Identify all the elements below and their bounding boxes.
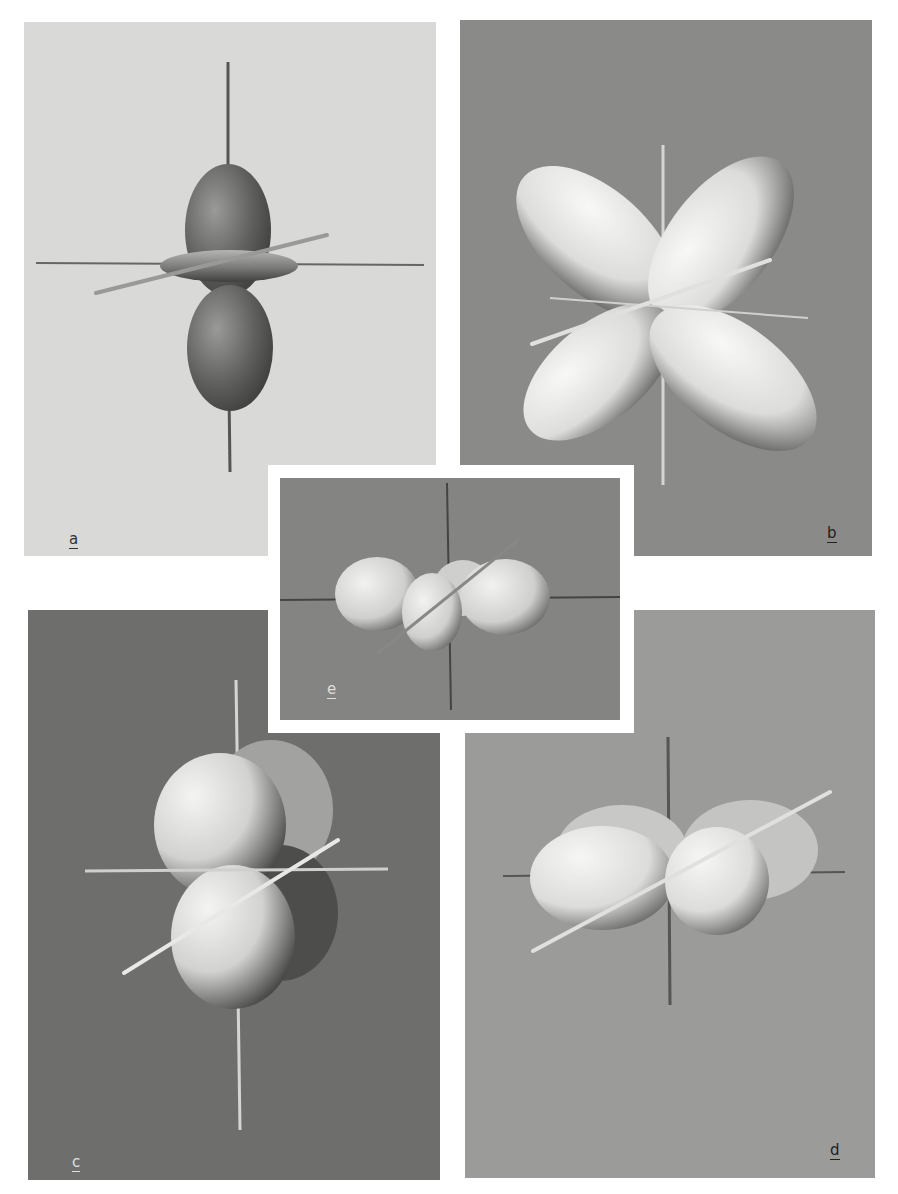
panel-e-orbital-photo: e (280, 478, 620, 720)
panel-label-e: e (327, 682, 336, 699)
panel-label-d: d (830, 1143, 840, 1160)
lobe-lower-front (171, 865, 295, 1009)
panel-label-c: c (72, 1155, 80, 1172)
lobe-right (460, 559, 550, 635)
panel-label-b: b (827, 526, 837, 543)
lobe-right-front (665, 827, 769, 935)
panel-label-a: a (69, 532, 78, 549)
torus-ring (160, 250, 298, 282)
lobe-front (402, 573, 462, 651)
lobe-bottom (187, 285, 273, 411)
panel-e-inset-frame: e (268, 465, 634, 733)
